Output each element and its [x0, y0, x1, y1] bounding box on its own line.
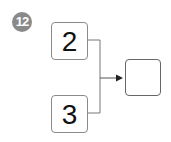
answer-box[interactable] — [125, 59, 161, 96]
arrow-head-icon — [116, 75, 123, 82]
